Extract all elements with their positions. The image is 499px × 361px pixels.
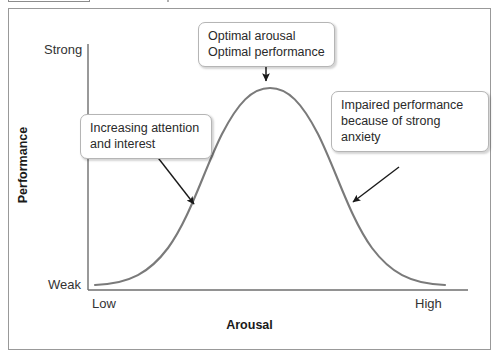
optimal-arousal-callout: Optimal arousal Optimal performance: [198, 22, 335, 67]
x-axis-left-label: Low: [92, 296, 116, 311]
impaired-performance-callout: Impaired performance because of strong a…: [331, 91, 489, 152]
y-axis-title: Performance: [16, 115, 30, 215]
increasing-attention-callout: Increasing attention and interest: [80, 114, 212, 159]
y-axis-bottom-label: Weak: [48, 277, 81, 292]
y-axis-top-label: Strong: [44, 42, 82, 57]
arousal-performance-figure: Strong Weak Low High Performance Arousal…: [0, 0, 499, 361]
x-axis-title: Arousal: [0, 318, 499, 332]
x-axis-right-label: High: [415, 296, 442, 311]
arrow-impaired-performance: [353, 167, 399, 202]
